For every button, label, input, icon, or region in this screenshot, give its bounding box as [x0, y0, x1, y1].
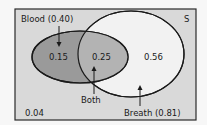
breath-label: Breath (0.81) — [124, 108, 181, 118]
blood-label: Blood (0.40) — [21, 14, 73, 24]
venn-diagram: Blood (0.40) S 0.15 0.25 0.56 Both 0.04 … — [0, 0, 207, 125]
neither-value: 0.04 — [25, 108, 44, 118]
breath-only-value: 0.56 — [144, 52, 163, 62]
both-value: 0.25 — [92, 52, 111, 62]
both-label: Both — [81, 95, 101, 105]
universe-label: S — [184, 14, 189, 24]
blood-only-value: 0.15 — [49, 52, 68, 62]
